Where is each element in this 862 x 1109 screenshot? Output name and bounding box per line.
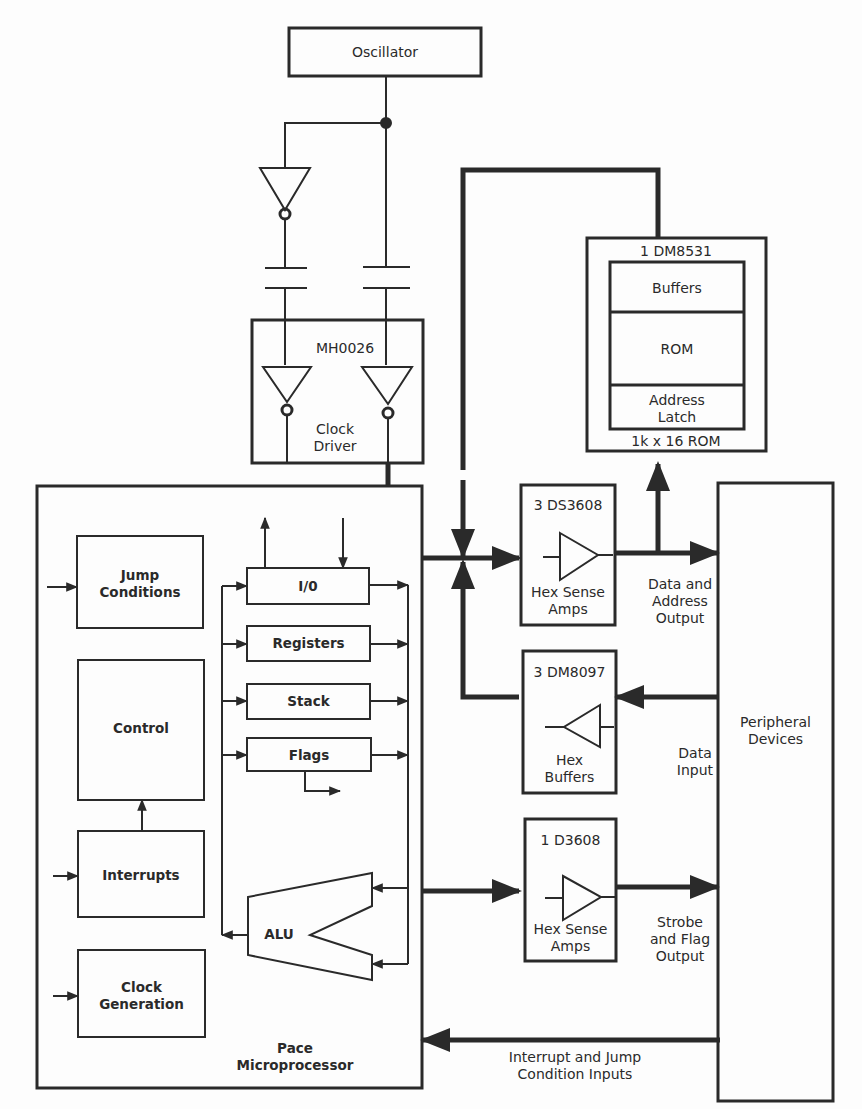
hex-buffers-part: 3 DM8097 xyxy=(523,664,616,681)
rom-section-address-latch: Address Latch xyxy=(610,392,744,426)
buffer-icon xyxy=(564,705,600,747)
interrupt-bus-label: Interrupt and Jump Condition Inputs xyxy=(470,1049,680,1083)
rom-section-rom: ROM xyxy=(610,341,744,358)
clock-driver-part: MH0026 xyxy=(290,340,400,357)
sense-amps-top-part: 3 DS3608 xyxy=(521,497,615,514)
stack-label: Stack xyxy=(247,693,370,710)
microprocessor-label: Pace Microprocessor xyxy=(220,1040,370,1074)
sense-amps-bottom-label: Hex Sense Amps xyxy=(525,921,616,955)
clock-generation-label: Clock Generation xyxy=(78,979,205,1013)
rom-section-buffers: Buffers xyxy=(610,280,744,297)
amplifier-icon xyxy=(560,533,598,580)
oscillator-label: Oscillator xyxy=(289,44,481,61)
block-diagram: Oscillator MH0026 Clock Driver 1 DM8531 … xyxy=(0,0,862,1109)
flags-label: Flags xyxy=(247,747,371,764)
io-register-label: I/0 xyxy=(247,578,369,595)
strobe-flag-output-label: Strobe and Flag Output xyxy=(640,914,720,965)
peripheral-devices-box xyxy=(718,483,833,1101)
inverter-icon xyxy=(263,367,311,402)
data-address-output-label: Data and Address Output xyxy=(640,576,720,627)
registers-label: Registers xyxy=(247,635,370,652)
control-label: Control xyxy=(78,720,204,737)
rom-caption: 1k x 16 ROM xyxy=(590,433,762,450)
hex-buffers-label: Hex Buffers xyxy=(523,752,616,786)
sense-amps-top-label: Hex Sense Amps xyxy=(521,584,615,618)
peripheral-devices-label: Peripheral Devices xyxy=(718,714,833,748)
inverter-icon xyxy=(260,168,310,210)
alu-label: ALU xyxy=(254,926,304,943)
clock-driver-label: Clock Driver xyxy=(300,421,370,455)
diagram-wiring xyxy=(0,0,862,1109)
inverter-icon xyxy=(362,367,412,404)
rom-part: 1 DM8531 xyxy=(590,243,762,260)
interrupts-label: Interrupts xyxy=(78,867,204,884)
amplifier-icon xyxy=(563,876,601,920)
data-input-label: Data Input xyxy=(660,745,730,779)
sense-amps-bottom-part: 1 D3608 xyxy=(525,832,616,849)
jump-conditions-label: Jump Conditions xyxy=(77,567,203,601)
